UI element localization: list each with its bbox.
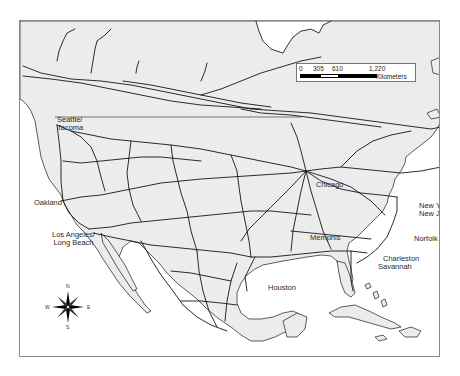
city-label-new-york: New York/ New Jersey: [419, 202, 440, 218]
city-name-line2: Tacoma: [57, 124, 83, 132]
land-hispaniola: [399, 327, 421, 337]
city-name: Savannah: [378, 262, 412, 271]
city-label-chicago: Chicago: [316, 181, 344, 189]
scale-unit-label: Kilometers: [376, 73, 407, 80]
city-name-line2: Long Beach: [52, 239, 95, 247]
city-label-houston: Houston: [268, 284, 296, 292]
scale-segment: [320, 74, 339, 78]
compass-east: E: [87, 304, 90, 310]
compass-south: S: [66, 324, 69, 330]
scale-tick-1220: 1,220: [369, 65, 385, 72]
scale-tick-305: 305: [313, 65, 324, 72]
compass-rose-icon: N S W E: [48, 287, 88, 327]
compass-star-icon: [48, 287, 88, 327]
scale-segment: [300, 74, 320, 78]
city-name: Norfolk: [414, 234, 438, 243]
city-label-los-angeles: Los Angeles/ Long Beach: [52, 231, 95, 247]
land-jamaica: [375, 335, 387, 341]
city-name: Chicago: [316, 180, 344, 189]
city-label-oakland: Oakland: [34, 199, 62, 207]
city-label-savannah: Savannah: [378, 263, 412, 271]
land-bahamas: [365, 283, 387, 307]
city-label-memphis: Memphis: [310, 234, 340, 242]
city-label-seattle: Seattle/ Tacoma: [57, 116, 83, 132]
compass-west: W: [45, 304, 50, 310]
scale-bar: 0 305 610 1,220 Kilometers: [296, 63, 416, 82]
compass-north: N: [66, 283, 70, 289]
city-name-line2: New Jersey: [419, 210, 440, 218]
city-name: Memphis: [310, 233, 340, 242]
city-name: Houston: [268, 283, 296, 292]
scale-tick-0: 0: [299, 65, 303, 72]
city-name: Oakland: [34, 198, 62, 207]
city-label-norfolk: Norfolk: [414, 235, 438, 243]
land-cuba: [329, 305, 401, 329]
scale-tick-610: 610: [332, 65, 343, 72]
scale-segment: [339, 74, 377, 78]
